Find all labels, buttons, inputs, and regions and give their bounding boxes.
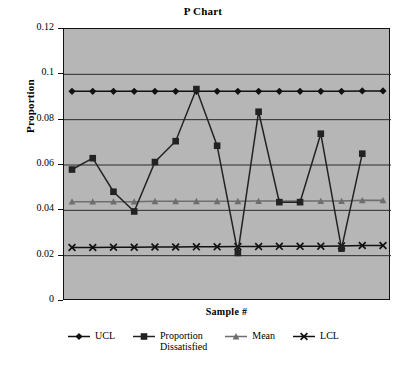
data-point-diamond [296,88,303,95]
series-ucl [68,87,386,95]
data-point-diamond [131,88,138,95]
data-point-diamond [276,88,283,95]
data-point-square [318,130,325,137]
data-point-square [69,166,76,173]
series-proportion-dissatisfied [69,86,366,256]
data-point-square [359,150,366,157]
data-point-diamond [379,87,386,94]
series-line [72,89,362,253]
data-point-diamond [151,88,158,95]
chart-legend: UCLProportion DissatisfiedMeanLCL [0,330,406,352]
x-axis-title: Sample # [63,306,390,317]
series-line [72,245,383,247]
y-tick-label: 0 [14,294,54,304]
data-point-square [214,142,221,149]
legend-label: Proportion Dissatisfied [160,330,207,352]
gridlines [64,74,391,255]
data-point-diamond [234,88,241,95]
data-point-diamond [214,88,221,95]
data-point-square [255,108,262,115]
data-point-square [110,188,117,195]
legend-label: LCL [320,330,339,341]
data-point-diamond [338,88,345,95]
data-point-diamond [75,333,82,340]
legend-item[interactable]: Proportion Dissatisfied [132,330,207,352]
y-tick-mark [58,300,63,301]
data-point-diamond [255,88,262,95]
data-point-square [152,159,159,166]
legend-item[interactable]: LCL [292,330,339,342]
data-point-diamond [110,88,117,95]
legend-item[interactable]: UCL [67,330,115,342]
y-tick-label: 0.12 [14,22,54,32]
p-chart-figure: P Chart Proportion 00.020.040.060.080.10… [0,0,406,375]
data-point-square [172,138,179,145]
data-point-diamond [89,88,96,95]
data-point-square [276,199,283,206]
data-point-square [338,245,345,252]
data-series-layer [68,86,386,256]
legend-marker-triangle-icon [224,331,248,342]
y-tick-label: 0.02 [14,249,54,259]
data-point-diamond [172,88,179,95]
plot-area [63,28,390,300]
y-axis-title: Proportion [24,16,36,196]
data-point-square [89,155,96,162]
y-tick-label: 0.08 [14,113,54,123]
data-point-square [193,86,200,93]
legend-marker-square-icon [132,331,156,342]
data-point-square [297,199,304,206]
data-point-square [141,333,148,340]
legend-label: Mean [252,330,275,341]
data-point-square [131,208,138,215]
chart-canvas [64,29,391,301]
y-tick-label: 0.06 [14,158,54,168]
data-point-diamond [68,88,75,95]
chart-title: P Chart [0,5,406,17]
y-tick-label: 0.04 [14,203,54,213]
data-point-diamond [359,87,366,94]
legend-marker-x-icon [292,331,316,342]
y-tick-label: 0.1 [14,67,54,77]
legend-label: UCL [95,330,115,341]
data-point-diamond [317,88,324,95]
legend-marker-diamond-icon [67,331,91,342]
data-point-square [235,250,242,257]
legend-item[interactable]: Mean [224,330,275,342]
